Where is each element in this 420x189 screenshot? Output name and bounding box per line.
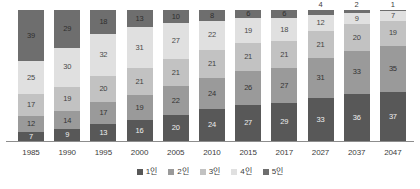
stacked-bar[interactable]: 619212627 [235, 10, 261, 141]
bar-segment[interactable]: 21 [235, 43, 261, 71]
legend-label: 4인 [240, 168, 251, 176]
bar-segment[interactable]: 7 [18, 132, 44, 141]
stacked-bar[interactable]: 1027212220 [163, 10, 189, 141]
bar-segment[interactable]: 20 [344, 24, 370, 50]
bar-segment[interactable]: 6 [271, 10, 297, 18]
bar-segment[interactable]: 33 [344, 51, 370, 94]
bar-outside-label: 1 [380, 1, 406, 9]
bar-segment[interactable]: 35 [380, 46, 406, 92]
stacked-bar[interactable]: 822212424 [199, 10, 225, 141]
bar-column[interactable]: 392517127 [18, 10, 44, 141]
bar-segment[interactable]: 19 [127, 95, 153, 120]
bar-segment[interactable]: 29 [271, 103, 297, 141]
bar-segment[interactable]: 18 [271, 18, 297, 41]
bar-segment[interactable]: 19 [380, 21, 406, 46]
bar-segment[interactable]: 12 [308, 15, 334, 31]
x-tick-label: 2010 [199, 146, 225, 160]
legend-swatch-icon [137, 169, 143, 175]
bar-segment[interactable]: 16 [127, 120, 153, 141]
bar-column[interactable]: 619212627 [235, 10, 261, 141]
bar-column[interactable]: 822212424 [199, 10, 225, 141]
x-tick-label: 1995 [90, 146, 116, 160]
bar-segment[interactable]: 32 [90, 34, 116, 76]
bar-segment[interactable]: 39 [18, 10, 44, 61]
stacked-bar[interactable]: 1832201713 [90, 10, 116, 141]
bar-segment[interactable]: 17 [90, 102, 116, 124]
bar-segment[interactable]: 26 [235, 71, 261, 105]
bar-column[interactable]: 1331211916 [127, 10, 153, 141]
bar-segment[interactable]: 31 [127, 27, 153, 68]
bar-segment[interactable]: 24 [199, 78, 225, 110]
x-axis-line [6, 141, 414, 142]
stacked-bar[interactable]: 12213133 [308, 10, 334, 141]
x-tick-label: 2000 [127, 146, 153, 160]
stacked-bar[interactable]: 293019149 [54, 10, 80, 141]
bar-segment[interactable]: 36 [344, 94, 370, 141]
bar-column[interactable]: 1027212220 [163, 10, 189, 141]
bar-segment[interactable]: 12 [18, 116, 44, 132]
bar-segment[interactable]: 20 [163, 115, 189, 141]
x-tick-label: 2047 [380, 146, 406, 160]
bar-segment[interactable]: 27 [163, 23, 189, 58]
bar-segment[interactable]: 37 [380, 92, 406, 141]
x-tick-label: 2017 [271, 146, 297, 160]
stacked-bar[interactable]: 618212729 [271, 10, 297, 141]
x-tick-label: 2005 [163, 146, 189, 160]
bar-segment[interactable]: 22 [199, 21, 225, 50]
stacked-bar[interactable]: 392517127 [18, 10, 44, 141]
bar-segment[interactable]: 18 [90, 10, 116, 34]
legend-label: 2인 [177, 168, 188, 176]
bar-segment[interactable]: 24 [199, 109, 225, 141]
legend-swatch-icon [263, 169, 269, 175]
bar-segment[interactable]: 29 [54, 10, 80, 48]
stacked-bar[interactable]: 7193537 [380, 10, 406, 141]
bar-segment[interactable]: 6 [235, 10, 261, 18]
legend-item[interactable]: 1인 [137, 168, 157, 176]
bar-segment[interactable]: 21 [308, 31, 334, 58]
bar-segment[interactable]: 13 [90, 124, 116, 141]
legend-swatch-icon [200, 169, 206, 175]
bar-segment[interactable]: 13 [127, 10, 153, 27]
x-tick-label: 2015 [235, 146, 261, 160]
bar-column[interactable]: 122131334 [308, 10, 334, 141]
bar-column[interactable]: 293019149 [54, 10, 80, 141]
legend-item[interactable]: 2인 [168, 168, 188, 176]
bar-column[interactable]: 618212729 [271, 10, 297, 141]
legend-item[interactable]: 5인 [263, 168, 283, 176]
legend-item[interactable]: 4인 [231, 168, 251, 176]
x-tick-label: 1990 [54, 146, 80, 160]
stacked-bar[interactable]: 1331211916 [127, 10, 153, 141]
bar-segment[interactable]: 10 [163, 10, 189, 23]
bar-outside-label: 4 [308, 1, 334, 9]
bar-segment[interactable]: 21 [271, 41, 297, 68]
bar-segment[interactable]: 9 [54, 129, 80, 141]
bar-segment[interactable]: 9 [344, 13, 370, 25]
bar-segment[interactable]: 27 [235, 105, 261, 141]
bar-segment[interactable]: 17 [18, 94, 44, 116]
bar-segment[interactable]: 20 [90, 76, 116, 102]
bar-segment[interactable]: 8 [199, 10, 225, 21]
bar-segment[interactable]: 19 [235, 18, 261, 43]
bar-segment[interactable]: 30 [54, 48, 80, 87]
legend-item[interactable]: 3인 [200, 168, 220, 176]
bar-segment[interactable]: 7 [380, 11, 406, 20]
bar-segment[interactable]: 27 [271, 68, 297, 103]
bar-segment[interactable]: 21 [163, 59, 189, 87]
bar-column[interactable]: 71935371 [380, 10, 406, 141]
legend-label: 5인 [272, 168, 283, 176]
bar-segment[interactable]: 22 [163, 86, 189, 115]
legend-label: 1인 [146, 168, 157, 176]
bar-outside-label: 2 [344, 1, 370, 9]
legend-label: 3인 [209, 168, 220, 176]
bar-segment[interactable]: 19 [54, 87, 80, 112]
bar-segment[interactable]: 14 [54, 111, 80, 129]
bar-segment[interactable]: 33 [308, 98, 334, 141]
bar-segment[interactable]: 25 [18, 61, 44, 94]
bar-segment[interactable]: 31 [308, 58, 334, 98]
bar-column[interactable]: 1832201713 [90, 10, 116, 141]
bar-segment[interactable]: 21 [199, 50, 225, 78]
stacked-bar[interactable]: 9203336 [344, 10, 370, 141]
bar-column[interactable]: 92033362 [344, 10, 370, 141]
x-tick-label: 1985 [18, 146, 44, 160]
bar-segment[interactable]: 21 [127, 68, 153, 96]
